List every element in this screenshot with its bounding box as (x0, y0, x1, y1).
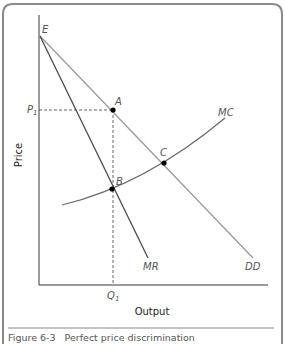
point-e-label: E (42, 24, 49, 35)
caption-title: Perfect price discrimination (65, 332, 195, 343)
q1-tick-label: Q1 (107, 290, 119, 303)
p1-tick-label: P1 (27, 104, 38, 117)
mc-label: MC (218, 107, 234, 118)
point-c-label: C (160, 147, 167, 158)
mr-label: MR (143, 261, 159, 272)
mr-curve (40, 36, 148, 258)
x-axis-label: Output (135, 306, 170, 317)
point-a-marker (110, 107, 115, 112)
figure-caption: Figure 6-3Perfect price discrimination (8, 332, 195, 343)
point-b-label: B (116, 176, 123, 187)
dd-demand-curve (40, 36, 253, 258)
point-b-marker (109, 186, 114, 191)
point-a-label: A (114, 96, 122, 107)
caption-number: Figure 6-3 (8, 332, 56, 343)
dd-label: DD (245, 261, 261, 272)
point-c-marker (161, 160, 166, 165)
figure-diagram: E A B C MC MR DD P1 Q1 Price Output Figu… (0, 0, 285, 344)
y-axis-label: Price (13, 143, 24, 167)
